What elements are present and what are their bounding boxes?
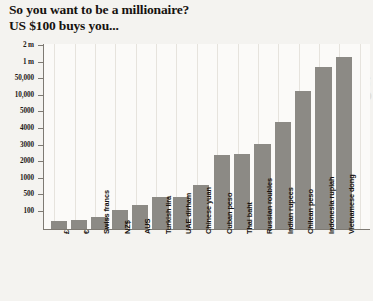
bar-chart: 1005001000200030004000500010,00050,0001 … bbox=[0, 36, 373, 301]
y-axis-tick-mark bbox=[38, 95, 43, 96]
y-axis-tick-label: 3000 bbox=[20, 141, 34, 149]
y-axis-tick-mark bbox=[38, 178, 43, 179]
bar bbox=[71, 220, 87, 229]
chart-title-block: So you want to be a millionaire? US $100… bbox=[9, 2, 349, 33]
x-axis-category-label: Turkish lira bbox=[164, 196, 173, 234]
vertical-gridline bbox=[54, 44, 55, 229]
y-axis-tick-mark bbox=[38, 62, 43, 63]
y-axis-tick-label: 50,000 bbox=[15, 74, 34, 82]
x-axis-category-label: AUS bbox=[143, 219, 152, 234]
y-axis-tick-label: 1 m bbox=[23, 58, 34, 66]
x-axis-category-label: Indonesia rupiah bbox=[327, 176, 336, 234]
y-axis-tick-mark bbox=[38, 211, 43, 212]
page-title-line-1: So you want to be a millionaire? bbox=[9, 2, 349, 18]
x-axis-category-label: Indian rupees bbox=[286, 187, 295, 234]
x-axis-category-label: £ bbox=[62, 230, 71, 234]
y-axis-tick-label: 4000 bbox=[20, 124, 34, 132]
y-axis-tick-label: 2 m bbox=[23, 41, 34, 49]
y-axis-tick-mark bbox=[38, 161, 43, 162]
x-axis-category-label: UAE dirham bbox=[184, 193, 193, 234]
chart-page: So you want to be a millionaire? US $100… bbox=[0, 0, 373, 301]
x-axis-category-label: Cuban peso bbox=[225, 193, 234, 234]
x-axis-category-label: Swiss francs bbox=[102, 190, 111, 234]
y-axis-tick-label: 1000 bbox=[20, 174, 34, 182]
y-axis-line bbox=[43, 44, 44, 230]
x-axis-category-label: NZ$ bbox=[123, 220, 132, 234]
y-axis-tick-mark bbox=[38, 111, 43, 112]
x-axis-category-label: Russian roubles bbox=[265, 178, 274, 234]
x-axis-category-label: Chinese yuan bbox=[204, 187, 213, 234]
vertical-gridline bbox=[95, 44, 96, 229]
y-axis-tick-mark bbox=[38, 145, 43, 146]
y-axis-tick-mark bbox=[38, 78, 43, 79]
y-axis-tick-label: 5000 bbox=[20, 107, 34, 115]
x-axis-category-label: € bbox=[82, 230, 91, 234]
x-axis-category-label: Chilean peso bbox=[306, 189, 315, 234]
y-axis-tick-mark bbox=[38, 128, 43, 129]
vertical-gridline bbox=[136, 44, 137, 229]
vertical-gridline bbox=[360, 44, 361, 229]
y-axis-tick-label: 500 bbox=[24, 190, 34, 198]
x-axis-category-label: Vietnamese dong bbox=[347, 174, 356, 234]
y-axis-tick-label: 2000 bbox=[20, 157, 34, 165]
y-axis-tick-label: 10,000 bbox=[15, 91, 34, 99]
y-axis-tick-mark bbox=[38, 194, 43, 195]
y-axis-tick-mark bbox=[38, 45, 43, 46]
x-axis-category-label: Thai baht bbox=[245, 202, 254, 234]
bar bbox=[51, 221, 67, 229]
vertical-gridline bbox=[115, 44, 116, 229]
page-title-line-2: US $100 buys you... bbox=[9, 18, 349, 34]
y-axis-tick-label: 100 bbox=[24, 207, 34, 215]
vertical-gridline bbox=[75, 44, 76, 229]
